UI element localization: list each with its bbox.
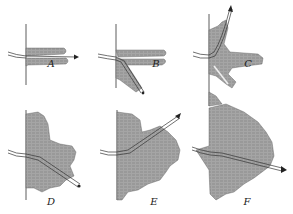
panel-e <box>100 110 181 200</box>
deposit-upper <box>26 48 66 56</box>
panel-label-a: A <box>47 58 54 69</box>
panel-a <box>8 24 79 85</box>
deposit-fan <box>209 20 263 88</box>
panel-d <box>8 110 81 200</box>
panel-f <box>192 104 287 200</box>
deposit-upper <box>116 50 166 57</box>
deposit-fan <box>117 112 180 200</box>
deposit-bottom <box>209 92 222 106</box>
panel-c <box>193 5 263 106</box>
panel-label-e: E <box>150 196 157 207</box>
panel-label-d: D <box>47 196 55 207</box>
needle-tip-icon <box>142 92 145 95</box>
arrow-icon <box>281 166 287 173</box>
panel-label-b: B <box>152 58 159 69</box>
arrow-icon <box>74 55 79 60</box>
deposit-fan <box>26 112 76 192</box>
figure-canvas <box>0 0 293 214</box>
panel-label-f: F <box>244 196 251 207</box>
deposit-fan <box>196 104 274 200</box>
panel-label-c: C <box>244 58 252 69</box>
needle-tip-icon <box>77 184 80 187</box>
arrow-icon <box>175 113 181 119</box>
arrow-icon <box>228 5 233 12</box>
